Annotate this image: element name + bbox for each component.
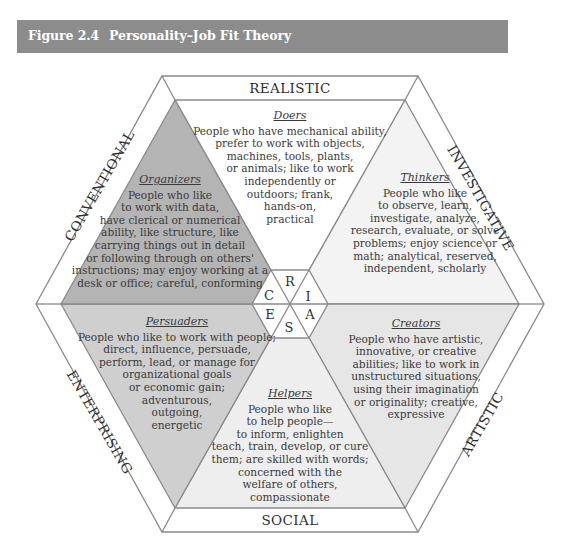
organizers-title: Organizers <box>60 174 280 187</box>
letter-c: C <box>261 288 277 303</box>
thinkers-title: Thinkers <box>330 172 520 185</box>
doers-title: Doers <box>190 110 390 123</box>
label-realistic: REALISTIC <box>240 80 340 96</box>
letter-s: S <box>281 320 297 335</box>
persuaders-title: Persuaders <box>72 316 282 329</box>
letter-i: I <box>300 289 316 304</box>
helpers-text: Helpers People who like to help people— … <box>200 388 380 503</box>
organizers-text: Organizers People who like to work with … <box>60 174 280 289</box>
thinkers-text: Thinkers People who like to observe, lea… <box>330 172 520 275</box>
creators-title: Creators <box>336 318 496 331</box>
letter-a: A <box>302 307 318 322</box>
label-social: SOCIAL <box>240 512 340 528</box>
helpers-title: Helpers <box>200 388 380 401</box>
letter-r: R <box>282 274 298 289</box>
